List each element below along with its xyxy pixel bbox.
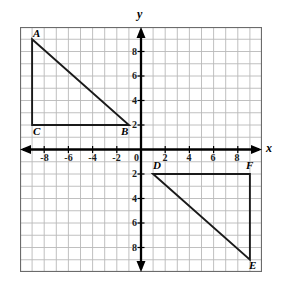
x-tick-label-zero: 0 <box>130 153 143 163</box>
x-tick-label-pos-4: 4 <box>180 153 198 163</box>
y-tick-label-neg-2: 2 <box>124 169 137 179</box>
grid-and-axes <box>20 27 262 272</box>
y-tick-label-pos-8: 8 <box>124 47 137 57</box>
coordinate-plane-figure: A B C D E F -8 -6 -4 -2 0 2 4 6 8 8 6 4 … <box>0 0 281 283</box>
vertex-label-e: E <box>249 260 256 271</box>
y-tick-label-pos-2: 2 <box>124 120 137 130</box>
x-tick-label-pos-8: 8 <box>228 153 246 163</box>
y-tick-label-pos-4: 4 <box>124 96 137 106</box>
x-tick-label-pos-6: 6 <box>204 153 222 163</box>
vertex-label-f: F <box>246 160 253 171</box>
x-axis-name: x <box>266 142 272 154</box>
vertex-label-a: A <box>33 28 40 39</box>
x-tick-label-neg-4: -4 <box>82 153 103 163</box>
y-tick-label-pos-6: 6 <box>124 71 137 81</box>
x-tick-label-neg-2: -2 <box>106 153 127 163</box>
plot-area: A B C D E F -8 -6 -4 -2 0 2 4 6 8 8 6 4 … <box>20 27 262 272</box>
y-tick-label-neg-8: 8 <box>124 243 137 253</box>
x-tick-label-neg-8: -8 <box>34 153 55 163</box>
y-tick-label-neg-6: 6 <box>124 218 137 228</box>
y-axis-name: y <box>137 8 142 20</box>
vertex-label-c: C <box>33 126 40 137</box>
y-tick-label-neg-4: 4 <box>124 194 137 204</box>
x-tick-label-neg-6: -6 <box>58 153 79 163</box>
x-tick-label-pos-2: 2 <box>156 153 174 163</box>
